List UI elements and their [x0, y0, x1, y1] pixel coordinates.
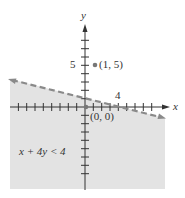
shaded-region — [10, 79, 165, 189]
inequality-label: x + 4y < 4 — [19, 146, 66, 157]
y-axis-arrow-icon — [83, 24, 88, 32]
x-axis-arrow-icon — [162, 105, 170, 110]
y-tick-label-5: 5 — [70, 59, 76, 70]
inequality-graph — [0, 0, 185, 198]
point-label-origin: (0, 0) — [90, 111, 114, 122]
boundary-arrow-right-icon — [158, 114, 167, 120]
x-tick-label-4: 4 — [115, 90, 121, 101]
x-axis-label: x — [173, 101, 178, 112]
y-axis-label: y — [81, 10, 86, 21]
point-1-5 — [93, 63, 98, 68]
point-origin — [84, 105, 89, 110]
point-label-1-5: (1, 5) — [99, 59, 123, 70]
